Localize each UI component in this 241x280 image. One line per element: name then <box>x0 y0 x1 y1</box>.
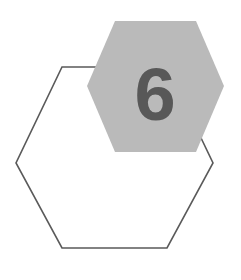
hexagon-number-label: 6 <box>134 53 175 136</box>
hexagon-badge-illustration: 6 <box>0 0 241 280</box>
graphic-canvas: 6 <box>0 0 241 280</box>
